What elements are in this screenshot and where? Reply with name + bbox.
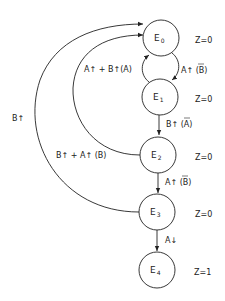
edge-e2-e0 bbox=[73, 35, 143, 155]
label-e3-e4: A↓ bbox=[165, 236, 177, 245]
state-diagram: E0 E1 E2 E3 E4 Z=0 Z=0 Z=0 Z=0 Z=1 A↑ + … bbox=[0, 0, 225, 301]
svg-text:A↑ (B): A↑ (B) bbox=[181, 66, 207, 75]
label-e3-e0: B↑ bbox=[12, 114, 24, 123]
edge-e1-e0 bbox=[142, 55, 149, 82]
output-e0: Z=0 bbox=[195, 36, 212, 45]
label-e2-e3: A↑ (B) bbox=[165, 176, 191, 187]
output-e2: Z=0 bbox=[195, 153, 212, 162]
node-e2: E2 bbox=[140, 137, 176, 173]
label-e0-e1: A↑ (B) bbox=[181, 64, 207, 75]
svg-text:A↑ (B): A↑ (B) bbox=[165, 178, 191, 187]
svg-text:B↑ (A): B↑ (A) bbox=[166, 120, 192, 129]
edge-e0-e1 bbox=[172, 53, 179, 80]
label-e2-e0: B↑ + A↑ (B) bbox=[56, 151, 106, 160]
node-e0: E0 bbox=[143, 20, 179, 56]
node-e1: E1 bbox=[142, 79, 178, 115]
output-e1: Z=0 bbox=[195, 95, 212, 104]
label-e1-e0: A↑ + B↑(A) bbox=[84, 65, 132, 74]
label-e1-e2: B↑ (A) bbox=[166, 118, 192, 129]
output-e3: Z=0 bbox=[195, 210, 212, 219]
output-e4: Z=1 bbox=[194, 268, 211, 277]
node-e3: E3 bbox=[139, 194, 175, 230]
node-e4: E4 bbox=[139, 252, 175, 288]
